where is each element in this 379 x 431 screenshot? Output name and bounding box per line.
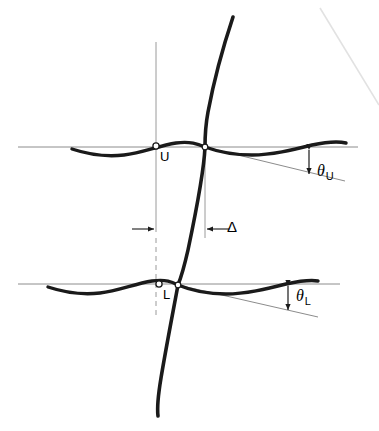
- upper-surface-wave: [72, 142, 346, 156]
- theta-upper-subscript: U: [325, 170, 334, 182]
- theta-upper-label: θU: [317, 163, 334, 182]
- theta-lower-label: θL: [296, 288, 311, 307]
- lower-surface-wave: [48, 280, 318, 294]
- lower-point-marker: [156, 281, 162, 287]
- vertical-s-curve: [158, 17, 233, 416]
- theta-lower-subscript: L: [304, 295, 311, 307]
- corner-artifact-line: [320, 8, 379, 105]
- lower-point-label: L: [163, 288, 170, 301]
- upper-point-label: U: [160, 150, 169, 163]
- delta-label: Δ: [227, 219, 237, 234]
- lower-crossing-marker: [175, 282, 181, 288]
- figure-root: U L θU θL Δ: [0, 0, 379, 431]
- upper-point-marker: [153, 143, 159, 149]
- theta-upper-symbol: θ: [317, 162, 325, 179]
- theta-lower-symbol: θ: [296, 287, 304, 304]
- upper-crossing-marker: [202, 144, 208, 150]
- diagram-canvas: [0, 0, 379, 431]
